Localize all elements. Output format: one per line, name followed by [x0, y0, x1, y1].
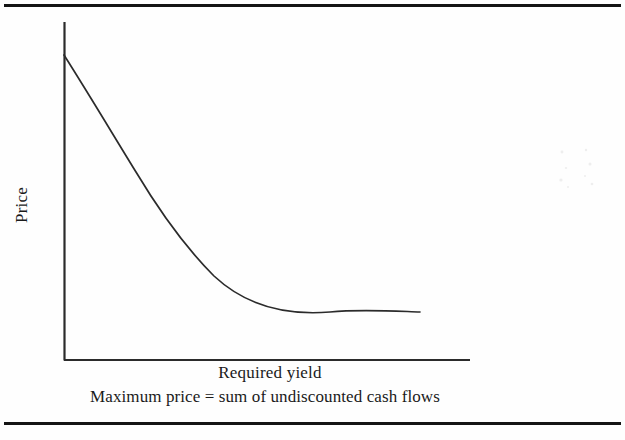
y-axis-label: Price — [12, 150, 34, 260]
figure-page: Price Required yield Maximum price = sum… — [0, 0, 625, 440]
figure-caption: Maximum price = sum of undiscounted cash… — [20, 387, 510, 407]
plot-area: Price Required yield Maximum price = sum… — [0, 0, 625, 440]
price-curve — [64, 55, 420, 313]
x-axis-label: Required yield — [130, 363, 410, 383]
